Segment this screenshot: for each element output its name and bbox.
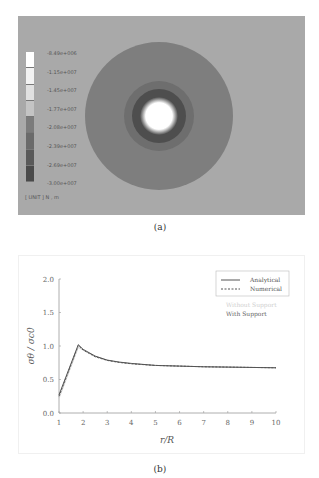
x-tick-label: 10 — [272, 419, 281, 427]
y-tick-label: 1.5 — [43, 309, 54, 317]
line-chart: 123456789100.00.51.01.52.0 r/R σθ / σc0 … — [0, 240, 319, 478]
legend-color-swatch — [26, 85, 34, 101]
legend-color-swatch — [26, 52, 34, 68]
x-tick-label: 9 — [250, 419, 254, 427]
axis-ticks: 123456789100.00.51.01.52.0 — [43, 276, 281, 428]
x-tick-label: 8 — [226, 419, 230, 427]
legend-numerical: Numerical — [250, 285, 282, 292]
legend-value-label: -1.15e+007 — [47, 69, 77, 75]
x-tick-label: 7 — [201, 419, 205, 427]
legend-value-label: -2.69e+007 — [47, 162, 77, 168]
x-tick-label: 5 — [153, 419, 157, 427]
legend-color-swatch — [26, 166, 34, 182]
x-tick-label: 2 — [81, 419, 85, 427]
legend-value-label: -3.00e+007 — [47, 180, 77, 186]
legend-color-swatch — [26, 117, 34, 133]
legend-color-swatch — [26, 150, 34, 166]
legend-without-support: Without Support — [226, 301, 277, 309]
legend-value-label: -8.49e+006 — [47, 50, 77, 56]
series-line — [59, 345, 276, 395]
series-line — [59, 345, 276, 396]
chart-legend: Analytical Numerical — [216, 271, 289, 296]
legend-with-support: With Support — [226, 310, 267, 318]
y-tick-label: 0.0 — [43, 410, 54, 418]
unit-label: [ UNIT ] N , m — [25, 194, 59, 200]
hole — [140, 97, 178, 135]
y-tick-label: 0.5 — [43, 376, 54, 384]
legend-value-label: -2.39e+007 — [47, 143, 77, 149]
caption-b: (b) — [140, 464, 180, 474]
y-axis-label: σθ / σc0 — [26, 327, 36, 365]
legend-analytical: Analytical — [249, 276, 280, 284]
data-series — [59, 345, 276, 399]
legend-value-label: -2.08e+007 — [47, 124, 77, 130]
caption-a: (a) — [140, 222, 180, 232]
legend-color-swatch — [26, 68, 34, 84]
contour-plot: -8.49e+006-1.15e+007-1.45e+007-1.77e+007… — [18, 16, 305, 215]
x-tick-label: 6 — [177, 419, 182, 427]
color-legend-bar — [26, 52, 34, 182]
legend-color-swatch — [26, 133, 34, 149]
x-axis-label: r/R — [160, 435, 174, 445]
y-tick-label: 1.0 — [43, 343, 54, 351]
legend-value-label: -1.45e+007 — [47, 87, 77, 93]
x-tick-label: 1 — [57, 419, 61, 427]
legend-color-swatch — [26, 101, 34, 117]
x-tick-label: 4 — [129, 419, 134, 427]
y-tick-label: 2.0 — [43, 276, 54, 284]
legend-value-label: -1.77e+007 — [47, 106, 77, 112]
x-tick-label: 3 — [105, 419, 109, 427]
